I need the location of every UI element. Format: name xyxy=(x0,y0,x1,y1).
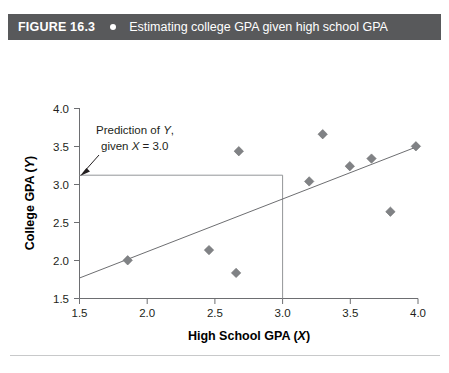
x-axis-title: High School GPA (X) xyxy=(188,329,310,343)
data-point-marker xyxy=(123,256,132,265)
annotation-arrow xyxy=(80,155,99,176)
bottom-divider xyxy=(10,355,440,356)
y-axis-ticks xyxy=(74,109,80,299)
data-point-marker xyxy=(411,142,420,151)
x-tick-label-25: 2.5 xyxy=(207,307,223,319)
data-point-marker xyxy=(305,177,314,186)
bullet-dot-icon xyxy=(110,24,116,30)
data-point-marker xyxy=(386,207,395,216)
data-point-marker xyxy=(367,154,376,163)
x-tick-label-30: 3.0 xyxy=(275,307,291,319)
y-tick-label-20: 2.0 xyxy=(53,255,69,267)
annotation-line-2: given X = 3.0 xyxy=(101,140,168,152)
y-tick-label-15: 1.5 xyxy=(53,293,69,305)
annotation-line-1: Prediction of Y, xyxy=(96,124,174,136)
data-point-marker xyxy=(231,268,240,277)
y-axis-title: College GPA (Y) xyxy=(23,156,37,250)
x-axis-ticks xyxy=(80,299,419,305)
x-tick-label-40: 4.0 xyxy=(410,307,426,319)
figure-header-bar: FIGURE 16.3 Estimating college GPA given… xyxy=(8,14,441,40)
data-point-marker xyxy=(234,147,243,156)
x-tick-label-15: 1.5 xyxy=(72,307,88,319)
data-point-marker xyxy=(318,130,327,139)
data-point-marker xyxy=(345,162,354,171)
x-tick-label-35: 3.5 xyxy=(342,307,358,319)
x-tick-label-20: 2.0 xyxy=(139,307,155,319)
y-tick-label-25: 2.5 xyxy=(53,217,69,229)
y-tick-label-35: 3.5 xyxy=(53,141,69,153)
figure-container: FIGURE 16.3 Estimating college GPA given… xyxy=(0,0,449,373)
scatter-plot: 4.0 3.5 3.0 2.5 2.0 1.5 1.5 2.0 2.5 3.0 … xyxy=(0,45,449,355)
y-tick-label-30: 3.0 xyxy=(53,179,69,191)
data-point-marker xyxy=(204,245,213,254)
y-tick-label-40: 4.0 xyxy=(53,103,69,115)
chart-svg: 4.0 3.5 3.0 2.5 2.0 1.5 1.5 2.0 2.5 3.0 … xyxy=(0,45,449,355)
figure-number-label: FIGURE 16.3 xyxy=(18,20,95,34)
figure-title-label: Estimating college GPA given high school… xyxy=(129,20,388,34)
